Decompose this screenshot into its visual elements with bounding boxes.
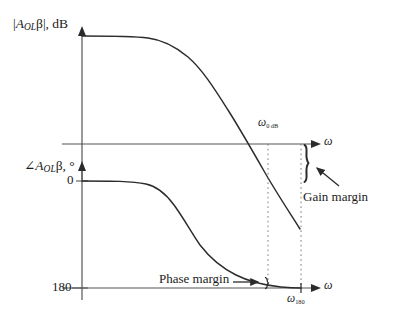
omega-180-subscript: 180 xyxy=(295,298,304,305)
magnitude-x-axis-label: ω xyxy=(324,135,332,147)
phase-label-ol: OL xyxy=(44,164,56,174)
phase-label-angle-icon: ∠ xyxy=(24,158,35,173)
phase-y-tick-label-0: 0 xyxy=(67,173,74,186)
phase-label-a: A xyxy=(35,158,43,173)
phase-margin-annotation: Phase margin xyxy=(159,272,229,285)
phase-x-axis-label: ω xyxy=(324,279,332,291)
phase-y-axis-arrowhead xyxy=(78,161,86,171)
phase-label-units: , ° xyxy=(63,158,75,173)
omega-180-symbol: ω xyxy=(287,292,295,304)
phase-x-axis-arrowhead xyxy=(311,284,321,292)
magnitude-label-beta: β xyxy=(36,16,43,31)
phase-label-beta: β xyxy=(56,158,63,173)
bode-plot-figure: |AOLβ|, dB ∠AOLβ, ° ω ω 0 180 ω0 dB ω180… xyxy=(0,0,393,318)
gain-margin-brace xyxy=(305,145,309,182)
omega-0db-symbol: ω xyxy=(258,116,266,128)
gain-margin-pointer-arrow xyxy=(317,168,339,186)
magnitude-curve xyxy=(82,36,300,229)
gain-margin-annotation: Gain margin xyxy=(303,190,368,203)
magnitude-label-ol: OL xyxy=(24,22,36,32)
phase-y-tick-label-180: 180 xyxy=(52,280,72,293)
omega-0db-label: ω0 dB xyxy=(258,117,278,129)
magnitude-y-axis-label: |AOLβ|, dB xyxy=(13,17,68,33)
magnitude-x-axis-arrowhead xyxy=(311,140,321,148)
magnitude-y-axis-arrowhead xyxy=(78,26,86,36)
omega-0db-subscript: 0 dB xyxy=(266,122,278,129)
magnitude-label-a: A xyxy=(16,16,24,31)
omega-180-label: ω180 xyxy=(287,293,305,305)
magnitude-label-units: , dB xyxy=(46,16,69,31)
magnitude-subplot xyxy=(62,26,339,288)
